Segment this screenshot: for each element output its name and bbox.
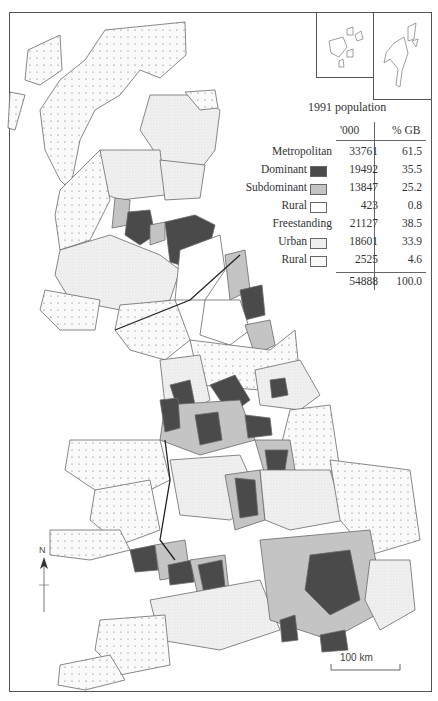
legend-row-metropolitan: Metropolitan 33761 61.5 [212, 145, 427, 163]
legend-row-fs-rural: Rural 2525 4.6 [212, 253, 427, 271]
region-manchester [195, 412, 222, 445]
region-fife [160, 160, 205, 200]
legend-header-thousands: '000 [340, 124, 359, 136]
legend-row-freestanding: Freestanding 21127 38.5 [212, 217, 427, 235]
region-sheffield [245, 415, 272, 438]
swatch-metro-rural [310, 202, 327, 213]
legend-header-pct: % GB [392, 124, 420, 136]
legend-total-rule [336, 272, 426, 273]
north-arrow: N [36, 545, 52, 610]
shetland-islands [374, 13, 431, 99]
swatch-fs-rural [310, 256, 327, 267]
swatch-dominant [310, 166, 327, 177]
orkney-islands [317, 13, 373, 77]
region-glasgow-sub [150, 222, 165, 245]
scale-bar-icon [330, 664, 402, 672]
region-sw-wales [50, 530, 130, 560]
legend-row-total: 54888 100.0 [212, 275, 427, 293]
region-kent [365, 560, 415, 630]
legend-row-metro-rural: Rural 423 0.8 [212, 199, 427, 217]
region-outer-isles [8, 92, 25, 130]
legend-row-subdominant: Subdominant 13847 25.2 [212, 181, 427, 199]
swatch-fs-urban [310, 238, 327, 249]
region-nottingham [265, 450, 288, 472]
scale-bar: 100 km [330, 652, 400, 672]
region-east-mids [260, 470, 345, 530]
inset-shetland [373, 12, 432, 100]
scale-label: 100 km [340, 652, 373, 663]
region-swansea [130, 545, 158, 572]
region-cumbria [115, 300, 190, 360]
legend-title: 1991 population [308, 100, 386, 115]
region-hull [270, 378, 288, 398]
north-arrow-icon [36, 557, 52, 612]
region-hebrides [25, 35, 62, 85]
swatch-subdominant [310, 184, 327, 195]
region-york-hull [255, 360, 320, 410]
legend-row-fs-urban: Urban 18601 33.9 [212, 235, 427, 253]
region-durham [200, 300, 250, 345]
region-wessex [150, 580, 280, 650]
inset-orkney [316, 12, 374, 78]
legend-row-dominant: Dominant 19492 35.5 [212, 163, 427, 181]
legend-header-rule [336, 140, 426, 141]
north-label: N [39, 545, 46, 555]
region-portsmouth [280, 615, 298, 642]
